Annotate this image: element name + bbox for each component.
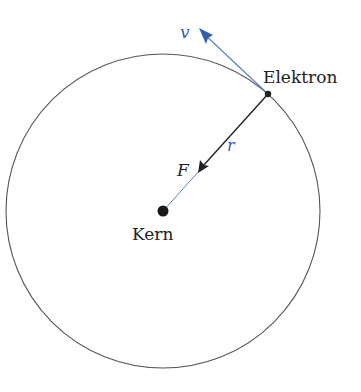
orbit-diagram: Elektron Kern v r F xyxy=(0,0,361,392)
velocity-line xyxy=(203,33,268,94)
radius-line-dark xyxy=(203,94,268,166)
velocity-arrowhead-icon xyxy=(199,28,213,44)
electron-dot xyxy=(265,91,271,97)
nucleus-dot xyxy=(158,206,169,217)
radius-label: r xyxy=(227,136,236,155)
nucleus-label: Kern xyxy=(132,224,173,244)
velocity-label: v xyxy=(180,22,190,42)
electron-label: Elektron xyxy=(263,67,337,87)
force-label: F xyxy=(176,160,190,180)
